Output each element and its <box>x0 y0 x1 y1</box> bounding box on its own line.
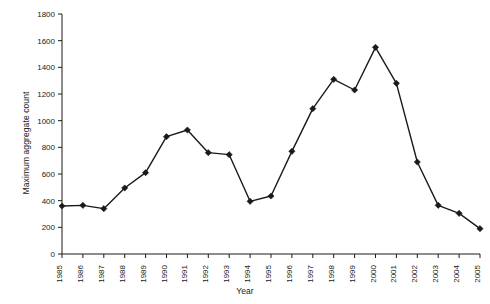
x-axis-tick-label: 2005 <box>473 264 482 282</box>
data-point-marker <box>414 159 420 165</box>
x-axis-tick-label: 2002 <box>410 264 419 282</box>
x-axis-tick-label: 1986 <box>76 264 85 282</box>
y-axis-tick-label: 600 <box>42 170 56 179</box>
x-axis-tick-label: 1994 <box>243 264 252 282</box>
x-axis-tick-label: 1998 <box>327 264 336 282</box>
x-axis-tick-label: 1991 <box>180 264 189 282</box>
data-point-marker <box>372 44 378 50</box>
x-axis-tick-label: 1997 <box>306 264 315 282</box>
y-axis-tick-label: 800 <box>42 143 56 152</box>
y-axis-tick-label: 1600 <box>37 37 55 46</box>
y-axis-tick-label: 1800 <box>37 10 55 19</box>
x-axis-tick-label: 1993 <box>222 264 231 282</box>
x-axis-title: Year <box>0 286 490 296</box>
x-axis-tick-label: 1999 <box>348 264 357 282</box>
chart-container: 0200400600800100012001400160018001985198… <box>0 0 490 304</box>
y-axis-tick-label: 0 <box>51 250 56 259</box>
y-axis-tick-label: 200 <box>42 223 56 232</box>
data-point-marker <box>352 87 358 93</box>
x-axis-tick-label: 1988 <box>118 264 127 282</box>
data-point-marker <box>268 193 274 199</box>
y-axis-tick-label: 400 <box>42 197 56 206</box>
y-axis-tick-label: 1400 <box>37 63 55 72</box>
y-axis-title: Maximum aggregate count <box>21 73 31 213</box>
data-series-line <box>62 47 480 228</box>
x-axis-tick-label: 2000 <box>369 264 378 282</box>
x-axis-tick-label: 1990 <box>160 264 169 282</box>
x-axis-tick-label: 1996 <box>285 264 294 282</box>
y-axis-tick-label: 1200 <box>37 90 55 99</box>
data-point-marker <box>163 134 169 140</box>
x-axis-tick-label: 1992 <box>201 264 210 282</box>
data-point-marker <box>226 152 232 158</box>
data-point-marker <box>289 148 295 154</box>
x-axis-tick-label: 2004 <box>452 264 461 282</box>
x-axis-tick-label: 2001 <box>389 264 398 282</box>
x-axis-tick-label: 1987 <box>97 264 106 282</box>
data-point-marker <box>393 80 399 86</box>
x-axis-tick-label: 2003 <box>431 264 440 282</box>
data-point-marker <box>435 202 441 208</box>
data-point-marker <box>247 198 253 204</box>
y-axis-tick-label: 1000 <box>37 117 55 126</box>
data-point-marker <box>59 203 65 209</box>
line-chart-plot: 0200400600800100012001400160018001985198… <box>0 0 490 304</box>
x-axis-tick-label: 1995 <box>264 264 273 282</box>
data-point-marker <box>80 202 86 208</box>
x-axis-tick-label: 1985 <box>55 264 64 282</box>
x-axis-tick-label: 1989 <box>139 264 148 282</box>
